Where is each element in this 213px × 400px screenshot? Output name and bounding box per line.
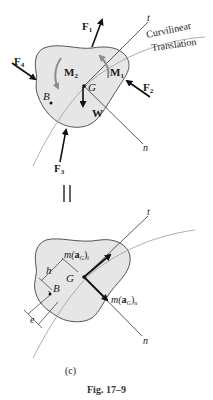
n-label-bottom: n: [143, 335, 148, 346]
rigid-body-top: [35, 46, 129, 128]
force-f2-label: F2: [143, 81, 154, 95]
point-b-top: [50, 102, 53, 105]
h-label: h: [46, 264, 52, 276]
force-f4-label: F4: [14, 55, 25, 69]
center-of-mass-g-bottom: [82, 275, 86, 279]
t-label-top: t: [147, 12, 150, 23]
inertia-normal-label: m(aG)n: [111, 294, 137, 306]
point-b-bottom: [49, 293, 52, 296]
force-f1-label: F1: [82, 20, 93, 34]
equivalence-sign: [64, 185, 70, 202]
weight-label: W: [92, 107, 103, 119]
force-f1-arrow: [92, 20, 102, 47]
n-label-top: n: [143, 142, 148, 153]
free-body-diagram-figure: F1 F2 F3 F4 M2 M1 W G B t n Curvilinear …: [0, 0, 213, 400]
g-label-bottom: G: [66, 272, 74, 284]
inertia-tangential-label: m(aG)t: [64, 249, 89, 261]
force-f3-label: F3: [54, 162, 65, 176]
center-of-mass-g-top: [82, 84, 86, 88]
subfigure-label: (c): [65, 365, 76, 377]
e-label: e: [30, 314, 35, 325]
bottom-diagram: G B h e t n m(aG)t m(aG)n: [24, 206, 195, 358]
translation-label: Translation: [151, 36, 197, 53]
b-label-top: B: [43, 90, 50, 102]
figure-caption: Fig. 17–9: [87, 384, 126, 395]
top-diagram: F1 F2 F3 F4 M2 M1 W G B t n Curvilinear …: [12, 12, 205, 176]
t-label-bottom: t: [147, 206, 150, 217]
b-label-bottom: B: [53, 282, 60, 294]
force-f3-arrow: [60, 130, 66, 162]
g-label-top: G: [88, 81, 96, 93]
